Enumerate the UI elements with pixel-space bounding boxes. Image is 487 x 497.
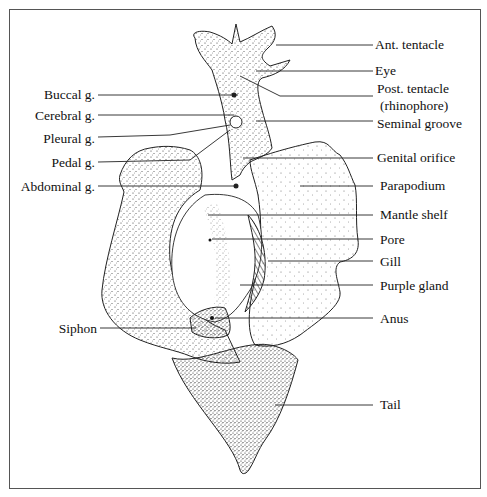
pore-dot	[209, 239, 212, 242]
label-rhinophore: (rhinophore)	[380, 98, 448, 113]
label-siphon: Siphon	[59, 321, 97, 336]
label-genital-orifice: Genital orifice	[377, 150, 455, 165]
label-pore: Pore	[380, 232, 405, 247]
parapodium-right	[249, 142, 358, 346]
label-purple-gland: Purple gland	[380, 278, 449, 293]
label-tail: Tail	[380, 397, 401, 412]
label-pleural-ganglion: Pleural g.	[43, 131, 95, 146]
label-pedal-ganglion: Pedal g.	[52, 155, 96, 170]
anus-dot	[210, 316, 214, 320]
sea-hare-illustration	[0, 0, 487, 497]
label-post-tentacle: Post. tentacle	[377, 81, 449, 96]
label-gill: Gill	[380, 254, 401, 269]
label-anus: Anus	[380, 311, 409, 326]
label-abdominal-ganglion: Abdominal g.	[21, 179, 95, 194]
label-buccal-ganglion: Buccal g.	[44, 87, 95, 102]
label-cerebral-ganglion: Cerebral g.	[35, 108, 95, 123]
label-eye: Eye	[375, 63, 396, 78]
label-ant-tentacle: Ant. tentacle	[375, 37, 444, 52]
label-mantle-shelf: Mantle shelf	[380, 207, 448, 222]
label-seminal-groove: Seminal groove	[377, 116, 462, 131]
label-parapodium: Parapodium	[380, 178, 445, 193]
tail-shape	[172, 344, 298, 473]
cerebral-ganglion	[230, 116, 242, 128]
